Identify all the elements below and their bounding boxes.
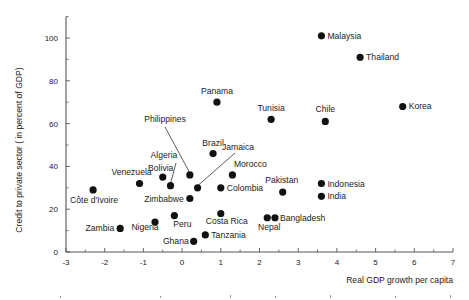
data-point: Panama — [201, 86, 233, 106]
data-point: Chile — [315, 104, 335, 125]
point-label: India — [327, 191, 346, 201]
y-tick-label: 60 — [49, 120, 58, 129]
point-marker — [213, 99, 220, 106]
data-point: Pakistan — [265, 175, 298, 196]
data-point: Korea — [399, 101, 432, 111]
point-label: Nepal — [258, 222, 281, 232]
data-point: Côte d'Ivoire — [70, 186, 118, 205]
point-label: Peru — [173, 219, 191, 229]
point-label: Côte d'Ivoire — [70, 195, 118, 205]
point-label: Tunisia — [257, 103, 285, 113]
point-label: Jamaica — [222, 142, 254, 152]
x-tick-label: 4 — [335, 258, 340, 267]
point-label: Bangladesh — [280, 213, 326, 223]
point-marker — [194, 184, 201, 191]
point-label: Tanzania — [211, 230, 246, 240]
data-point: Bolivia — [148, 163, 174, 181]
y-tick-label: 80 — [49, 77, 58, 86]
point-marker — [318, 193, 325, 200]
point-marker — [202, 231, 209, 238]
point-label: Malaysia — [327, 31, 361, 41]
point-marker — [117, 225, 124, 232]
x-tick-label: 0 — [180, 258, 185, 267]
point-marker — [268, 116, 275, 123]
cropped-caption-fragment — [0, 292, 469, 300]
point-label: Zambia — [86, 223, 115, 233]
data-point: Colombia — [217, 183, 263, 193]
point-marker — [190, 238, 197, 245]
leader-line — [198, 153, 235, 186]
point-label: Ghana — [163, 236, 189, 246]
x-tick-label: 3 — [296, 258, 301, 267]
y-axis-title: Credit to private sector ( in percent of… — [14, 67, 24, 232]
data-point: Zimbabwe — [144, 194, 193, 204]
data-point: Brazil — [202, 138, 224, 158]
point-label: Venezuela — [111, 167, 151, 177]
x-tick-label: -3 — [62, 258, 70, 267]
point-marker — [186, 171, 193, 178]
point-label: Korea — [409, 101, 432, 111]
point-label: Bolivia — [148, 163, 174, 173]
scatter-chart: -3-2-101234567020406080100 MalaysiaThail… — [0, 0, 469, 300]
data-points: MalaysiaThailandKoreaChileTunisiaPanamaB… — [70, 31, 432, 246]
point-label: Panama — [201, 86, 233, 96]
data-point: Indonesia — [318, 179, 365, 189]
point-label: Zimbabwe — [144, 194, 184, 204]
point-marker — [89, 186, 96, 193]
data-point: Venezuela — [111, 167, 151, 188]
point-marker — [186, 195, 193, 202]
data-point: Peru — [171, 212, 192, 229]
point-marker — [159, 174, 166, 181]
x-tick-label: -2 — [101, 258, 109, 267]
x-tick-label: 1 — [219, 258, 224, 267]
point-label: Philippines — [144, 114, 186, 124]
point-label: Indonesia — [327, 179, 364, 189]
point-label: Pakistan — [265, 175, 298, 185]
point-marker — [217, 184, 224, 191]
data-point: Thailand — [357, 52, 400, 62]
x-tick-label: 6 — [412, 258, 417, 267]
data-point: Morocco — [229, 159, 267, 179]
point-marker — [229, 171, 236, 178]
data-point: Nigeria — [131, 218, 158, 232]
point-marker — [318, 32, 325, 39]
data-point: Tanzania — [202, 230, 246, 240]
x-tick-label: 5 — [373, 258, 378, 267]
data-point: Costa Rica — [206, 210, 248, 227]
point-marker — [136, 180, 143, 187]
y-tick-label: 40 — [49, 162, 58, 171]
y-tick-label: 20 — [49, 205, 58, 214]
point-marker — [399, 103, 406, 110]
data-point: India — [318, 191, 346, 201]
point-marker — [279, 188, 286, 195]
point-label: Costa Rica — [206, 216, 248, 226]
point-label: Brazil — [202, 138, 224, 148]
x-tick-label: -1 — [140, 258, 148, 267]
point-marker — [167, 182, 174, 189]
point-label: Nigeria — [131, 222, 158, 232]
point-label: Morocco — [234, 159, 267, 169]
point-label: Chile — [315, 104, 335, 114]
data-point: Tunisia — [257, 103, 285, 123]
point-marker — [264, 214, 271, 221]
point-marker — [322, 118, 329, 125]
x-tick-label: 2 — [257, 258, 262, 267]
data-point: Malaysia — [318, 31, 362, 41]
point-label: Algeria — [151, 150, 178, 160]
point-marker — [209, 150, 216, 157]
data-point: Bangladesh — [271, 213, 325, 223]
data-point: Ghana — [163, 236, 197, 246]
point-marker — [318, 180, 325, 187]
point-label: Colombia — [227, 183, 264, 193]
y-tick-label: 100 — [45, 34, 59, 43]
x-tick-label: 7 — [451, 258, 456, 267]
point-marker — [271, 214, 278, 221]
point-marker — [357, 54, 364, 61]
x-axis-title: Real GDP growth per capita — [346, 275, 453, 285]
point-label: Thailand — [366, 52, 399, 62]
data-point: Zambia — [86, 223, 124, 233]
y-tick-label: 0 — [54, 248, 59, 257]
